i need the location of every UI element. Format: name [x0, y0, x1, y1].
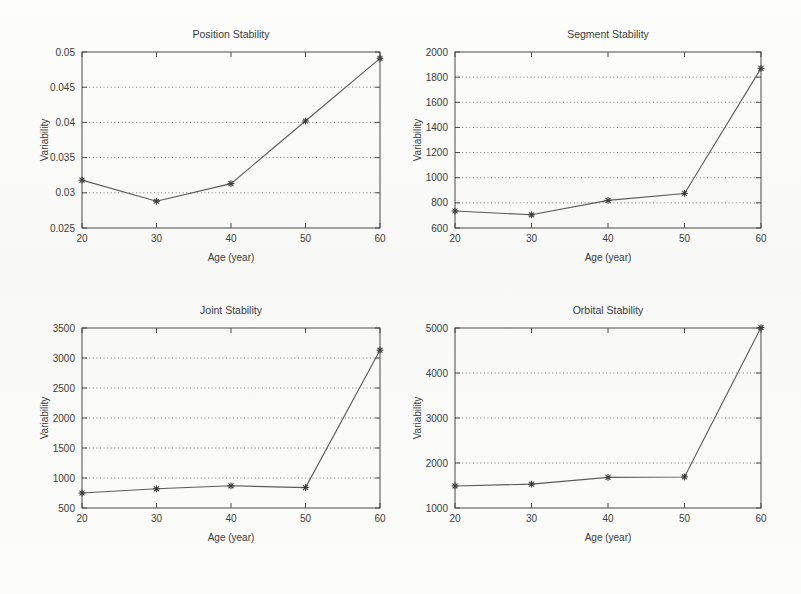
chart-title: Position Stability: [192, 28, 270, 40]
x-tick-label: 60: [374, 513, 386, 524]
y-tick-label: 1000: [426, 172, 449, 183]
y-tick-label: 0.05: [56, 47, 76, 58]
y-tick-label: 2000: [426, 47, 449, 58]
y-tick-label: 3000: [426, 413, 449, 424]
data-point-marker: [79, 490, 86, 497]
data-series-line: [455, 68, 761, 214]
x-tick-label: 50: [679, 233, 691, 244]
x-tick-label: 40: [602, 233, 614, 244]
x-axis-label: Age (year): [208, 252, 255, 263]
data-point-marker: [605, 197, 612, 204]
x-tick-label: 30: [151, 233, 163, 244]
y-tick-label: 1400: [426, 122, 449, 133]
x-tick-label: 20: [76, 233, 88, 244]
y-tick-label: 3000: [53, 353, 76, 364]
data-series-line: [455, 328, 761, 486]
y-axis-label: Variability: [412, 119, 423, 162]
y-tick-label: 2000: [426, 458, 449, 469]
chart-svg-top-right: Segment Stability60080010001200140016001…: [397, 14, 777, 286]
x-tick-label: 50: [300, 233, 312, 244]
y-tick-label: 1000: [426, 503, 449, 514]
data-point-marker: [452, 208, 459, 215]
data-point-marker: [681, 474, 688, 481]
x-tick-label: 60: [755, 513, 767, 524]
x-tick-label: 60: [374, 233, 386, 244]
x-tick-label: 20: [76, 513, 88, 524]
y-tick-label: 0.04: [56, 117, 76, 128]
y-tick-label: 500: [58, 503, 75, 514]
y-tick-label: 1600: [426, 97, 449, 108]
x-tick-label: 40: [225, 513, 237, 524]
data-point-marker: [302, 484, 309, 491]
data-point-marker: [452, 483, 459, 490]
data-point-marker: [302, 118, 309, 125]
data-point-marker: [153, 198, 160, 205]
x-tick-label: 50: [300, 513, 312, 524]
x-tick-label: 30: [526, 513, 538, 524]
chart-svg-top-left: Position Stability0.0250.030.0350.040.04…: [24, 14, 396, 286]
data-point-marker: [528, 481, 535, 488]
y-tick-label: 1500: [53, 443, 76, 454]
data-series-line: [82, 58, 380, 201]
x-tick-label: 40: [225, 233, 237, 244]
y-tick-label: 1200: [426, 147, 449, 158]
y-tick-label: 5000: [426, 323, 449, 334]
y-tick-label: 0.025: [50, 223, 75, 234]
x-axis-label: Age (year): [585, 532, 632, 543]
figure-page: Position Stability0.0250.030.0350.040.04…: [0, 0, 801, 594]
x-tick-label: 20: [449, 233, 461, 244]
data-point-marker: [228, 180, 235, 187]
data-point-marker: [758, 65, 765, 72]
data-series-line: [82, 350, 380, 493]
y-tick-label: 2000: [53, 413, 76, 424]
data-point-marker: [153, 485, 160, 492]
x-tick-label: 30: [151, 513, 163, 524]
y-tick-label: 4000: [426, 368, 449, 379]
y-axis-label: Variability: [412, 397, 423, 440]
y-tick-label: 0.035: [50, 152, 75, 163]
data-point-marker: [605, 474, 612, 481]
y-tick-label: 3500: [53, 323, 76, 334]
chart-title: Segment Stability: [567, 28, 649, 40]
chart-panel-position-stability: Position Stability0.0250.030.0350.040.04…: [24, 14, 396, 286]
x-tick-label: 40: [602, 513, 614, 524]
x-tick-label: 60: [755, 233, 767, 244]
plot-frame: [82, 52, 380, 228]
x-tick-label: 50: [679, 513, 691, 524]
chart-title: Orbital Stability: [573, 304, 644, 316]
data-point-marker: [377, 347, 384, 354]
data-point-marker: [528, 211, 535, 218]
chart-svg-bottom-right: Orbital Stability10002000300040005000203…: [397, 290, 777, 566]
y-tick-label: 600: [431, 223, 448, 234]
plot-frame: [82, 328, 380, 508]
data-point-marker: [758, 324, 765, 331]
y-tick-label: 800: [431, 197, 448, 208]
chart-panel-joint-stability: Joint Stability5001000150020002500300035…: [24, 290, 396, 566]
chart-panel-orbital-stability: Orbital Stability10002000300040005000203…: [397, 290, 777, 566]
data-point-marker: [79, 177, 86, 184]
x-tick-label: 30: [526, 233, 538, 244]
y-tick-label: 0.045: [50, 82, 75, 93]
y-tick-label: 2500: [53, 383, 76, 394]
y-tick-label: 0.03: [56, 187, 76, 198]
chart-panel-segment-stability: Segment Stability60080010001200140016001…: [397, 14, 777, 286]
data-point-marker: [228, 482, 235, 489]
x-axis-label: Age (year): [585, 252, 632, 263]
y-tick-label: 1000: [53, 473, 76, 484]
data-point-marker: [377, 55, 384, 62]
y-axis-label: Variability: [39, 397, 50, 440]
chart-svg-bottom-left: Joint Stability5001000150020002500300035…: [24, 290, 396, 566]
y-axis-label: Variability: [39, 119, 50, 162]
data-point-marker: [681, 190, 688, 197]
x-axis-label: Age (year): [208, 532, 255, 543]
x-tick-label: 20: [449, 513, 461, 524]
chart-title: Joint Stability: [200, 304, 263, 316]
y-tick-label: 1800: [426, 72, 449, 83]
